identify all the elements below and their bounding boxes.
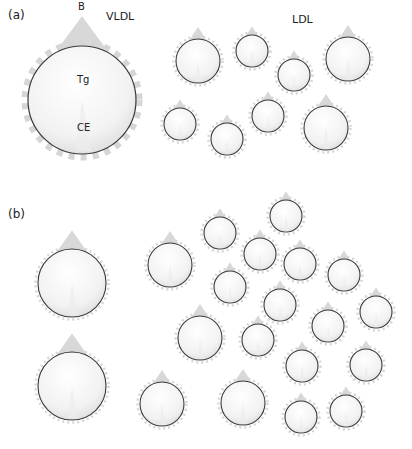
lipoprotein-particle <box>138 370 187 429</box>
lipoprotein-particle <box>250 91 287 134</box>
lipoprotein-particle <box>302 94 351 153</box>
lipoprotein-particle <box>348 340 385 383</box>
lipoprotein-particle <box>234 26 271 69</box>
lipoprotein-particle <box>324 25 373 84</box>
panel-a-label: (a) <box>8 8 25 22</box>
lipoprotein-particle <box>240 315 277 358</box>
lipoprotein-particle <box>262 280 299 323</box>
lipoprotein-particle <box>36 333 109 422</box>
lipoprotein-particle <box>310 301 347 344</box>
lipoprotein-particle <box>209 114 246 157</box>
ldl-title: LDL <box>292 13 313 26</box>
lipoprotein-particle <box>328 386 365 429</box>
lipoprotein-particle <box>176 304 225 363</box>
lipoprotein-particle <box>162 99 199 142</box>
lipoprotein-particle <box>219 369 268 428</box>
lipoprotein-particle <box>36 230 109 319</box>
lipoprotein-particle <box>212 262 249 305</box>
lipoprotein-particle <box>276 50 313 93</box>
lipoprotein-particle <box>242 229 279 272</box>
lipoprotein-diagram: (a) VLDL LDL B Tg CE (b) <box>0 0 412 449</box>
lipoprotein-particle <box>283 392 320 435</box>
lipoprotein-particle <box>26 16 139 156</box>
apob-label: B <box>78 1 85 12</box>
cholesteryl-ester-label: CE <box>77 122 90 133</box>
vldl-title: VLDL <box>106 10 134 23</box>
lipoprotein-particle <box>174 27 223 86</box>
lipoprotein-particle <box>282 239 319 282</box>
lipoprotein-particle <box>284 341 321 384</box>
lipoprotein-particle <box>202 208 239 251</box>
triglyceride-label: Tg <box>77 74 89 85</box>
panel-b-label: (b) <box>8 207 25 221</box>
lipoprotein-particle <box>268 191 305 234</box>
lipoprotein-particle <box>326 250 363 293</box>
lipoprotein-particle <box>358 287 395 330</box>
lipoprotein-particle <box>146 231 195 290</box>
particles-canvas <box>0 0 412 449</box>
